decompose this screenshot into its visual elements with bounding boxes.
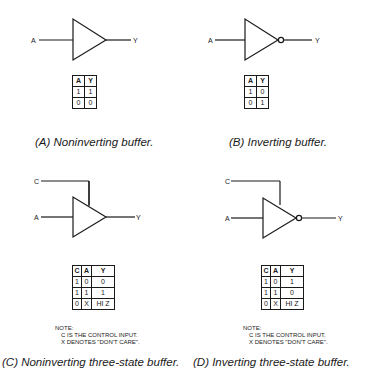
- header-cell: A: [82, 266, 92, 277]
- table-cell: 0: [73, 299, 82, 310]
- table-cell: X: [82, 299, 92, 310]
- output-label-y: Y: [136, 214, 141, 221]
- output-label-y: Y: [338, 215, 343, 222]
- inversion-bubble-icon: [278, 37, 283, 42]
- table-cell: 0: [73, 98, 85, 109]
- header-cell: A: [73, 76, 85, 87]
- table-cell: 1: [85, 87, 97, 98]
- inverting-three-state-buffer-symbol: [231, 181, 336, 238]
- control-label-c: C: [225, 178, 230, 185]
- table-cell: 0: [245, 98, 257, 109]
- header-cell: Y: [281, 266, 304, 277]
- input-label-a: A: [34, 214, 39, 221]
- input-label-a: A: [31, 37, 36, 44]
- table-row: 0 X HI Z: [262, 299, 304, 310]
- noninverting-three-state-buffer-symbol: [41, 181, 135, 237]
- table-cell: 1: [73, 288, 82, 299]
- note-c: NOTE: C IS THE CONTROL INPUT. X DENOTES …: [55, 325, 140, 346]
- table-cell: 0: [92, 277, 115, 288]
- table-header-row: C A Y: [262, 266, 304, 277]
- note-line: C IS THE CONTROL INPUT.: [243, 332, 328, 339]
- control-label-c: C: [34, 178, 39, 185]
- table-cell: 1: [245, 87, 257, 98]
- table-cell: 1: [73, 277, 82, 288]
- table-cell: 0: [82, 277, 92, 288]
- table-cell: X: [271, 299, 281, 310]
- truth-table-noninverting: A Y 1 1 0 0: [72, 75, 97, 109]
- table-cell: 0: [257, 87, 269, 98]
- header-cell: A: [245, 76, 257, 87]
- table-row: 1 0 0: [73, 277, 115, 288]
- buffer-diagrams: A Y A Y C A Y C A Y: [0, 0, 373, 380]
- header-cell: C: [262, 266, 271, 277]
- input-label-a: A: [208, 37, 213, 44]
- table-cell: 1: [73, 87, 85, 98]
- header-cell: A: [271, 266, 281, 277]
- table-cell: 0: [85, 98, 97, 109]
- table-header-row: A Y: [73, 76, 97, 87]
- table-row: 0 X HI Z: [73, 299, 115, 310]
- table-cell: 1: [281, 277, 304, 288]
- table-cell: 0: [262, 299, 271, 310]
- input-label-a: A: [225, 215, 230, 222]
- header-cell: C: [73, 266, 82, 277]
- table-row: 1 1 0: [262, 288, 304, 299]
- note-line: X DENOTES "DON'T CARE".: [243, 339, 328, 346]
- note-title: NOTE:: [55, 325, 73, 331]
- table-cell: 0: [281, 288, 304, 299]
- inversion-bubble-icon: [296, 215, 301, 220]
- truth-table-noninverting-three-state: C A Y 1 0 0 1 1 1 0 X HI Z: [72, 265, 115, 310]
- table-row: 1 0 1: [262, 277, 304, 288]
- caption-b: (B) Inverting buffer.: [229, 136, 327, 148]
- output-label-y: Y: [133, 37, 138, 44]
- table-row: 0 1: [245, 98, 269, 109]
- caption-c: (C) Noninverting three-state buffer.: [2, 356, 179, 368]
- header-cell: Y: [85, 76, 97, 87]
- table-row: 1 1 1: [73, 288, 115, 299]
- inverting-buffer-symbol: [215, 19, 312, 60]
- output-label-y: Y: [315, 37, 320, 44]
- table-row: 1 0: [245, 87, 269, 98]
- table-row: 1 1: [73, 87, 97, 98]
- table-header-row: C A Y: [73, 266, 115, 277]
- table-cell: HI Z: [92, 299, 115, 310]
- table-cell: 1: [257, 98, 269, 109]
- table-row: 0 0: [73, 98, 97, 109]
- note-d: NOTE: C IS THE CONTROL INPUT. X DENOTES …: [243, 325, 328, 346]
- table-cell: 1: [271, 288, 281, 299]
- note-title: NOTE:: [243, 325, 261, 331]
- header-cell: Y: [92, 266, 115, 277]
- table-cell: 1: [262, 288, 271, 299]
- note-line: C IS THE CONTROL INPUT.: [55, 332, 140, 339]
- table-cell: 0: [271, 277, 281, 288]
- table-cell: 1: [92, 288, 115, 299]
- truth-table-inverting: A Y 1 0 0 1: [244, 75, 269, 109]
- caption-a: (A) Noninverting buffer.: [35, 136, 153, 148]
- caption-d: (D) Inverting three-state buffer.: [193, 356, 350, 368]
- table-cell: 1: [262, 277, 271, 288]
- table-cell: 1: [82, 288, 92, 299]
- table-header-row: A Y: [245, 76, 269, 87]
- truth-table-inverting-three-state: C A Y 1 0 1 1 1 0 0 X HI Z: [261, 265, 304, 310]
- header-cell: Y: [257, 76, 269, 87]
- note-line: X DENOTES "DON'T CARE".: [55, 339, 140, 346]
- table-cell: HI Z: [281, 299, 304, 310]
- noninverting-buffer-symbol: [39, 19, 131, 60]
